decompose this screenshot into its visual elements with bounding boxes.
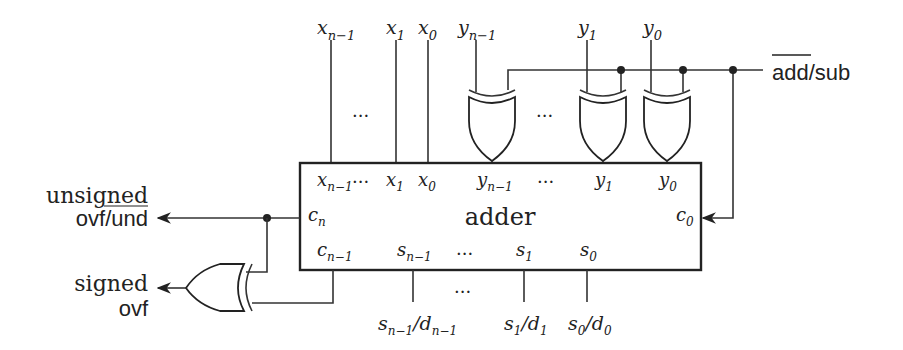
xor-gate-y-n-1 <box>469 90 515 161</box>
label-y-n-1: yn−1 <box>457 16 496 43</box>
xor-gate-y-1 <box>580 90 626 161</box>
unsigned-label: unsigned <box>46 183 148 208</box>
label-y-0: y0 <box>642 16 662 43</box>
port-ellipsis-y: ··· <box>537 171 554 192</box>
ellipsis-x: ··· <box>352 105 369 126</box>
output-s-d-0: s0/d0 <box>568 312 612 338</box>
signed-label: signed <box>74 271 148 296</box>
adder-subtractor-diagram: xn−1 x1 x0 yn−1 y1 y0 ··· ··· add/sub xn… <box>0 0 903 350</box>
ovf-label: ovf <box>119 296 149 321</box>
label-x-1: x1 <box>386 16 405 43</box>
output-s-d-1: s1/d1 <box>504 312 548 338</box>
label-x-0: x0 <box>418 16 437 43</box>
ovf-und-label: ovf/und <box>76 206 148 231</box>
adder-label: adder <box>465 203 536 231</box>
ellipsis-y: ··· <box>536 105 553 126</box>
ellipsis-outputs: ··· <box>454 281 471 302</box>
port-ellipsis-x: ··· <box>352 171 369 192</box>
port-ellipsis-s: ··· <box>456 243 473 264</box>
xor-gate-y-0 <box>644 90 690 161</box>
sum-output-wires <box>413 270 587 302</box>
label-y-1: y1 <box>577 16 597 43</box>
output-s-d-n-1: sn−1/dn−1 <box>378 312 457 338</box>
x-input-wires <box>331 40 428 163</box>
add-sub-label: add/sub <box>772 60 850 85</box>
label-x-n-1: xn−1 <box>317 16 355 43</box>
